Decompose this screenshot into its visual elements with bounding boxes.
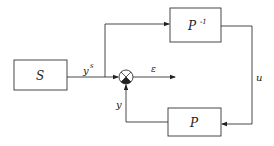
- svg-text:y: y: [82, 65, 89, 76]
- summing-junction: [119, 70, 133, 84]
- signal-epsilon-label: ε: [151, 64, 156, 74]
- svg-text:s: s: [90, 62, 94, 70]
- block-diagram: S P -1 P y s ε u y: [0, 0, 274, 146]
- edge-u: [221, 26, 252, 124]
- signal-u-label: u: [256, 72, 262, 83]
- block-s-label: S: [36, 69, 44, 83]
- block-s: S: [14, 60, 67, 90]
- block-p-inverse: P -1: [170, 8, 221, 42]
- block-p-inverse-label: P: [187, 19, 197, 33]
- signal-ys-label: y s: [82, 62, 94, 76]
- signal-y-label: y: [115, 99, 122, 110]
- edge-ys-to-pinv: [105, 24, 169, 77]
- block-p-inverse-superscript: -1: [200, 18, 207, 26]
- block-p: P: [168, 108, 221, 136]
- block-p-label: P: [189, 116, 199, 130]
- edge-y-feedback: [126, 85, 168, 122]
- diagram-svg: S P -1 P y s ε u y: [0, 0, 274, 146]
